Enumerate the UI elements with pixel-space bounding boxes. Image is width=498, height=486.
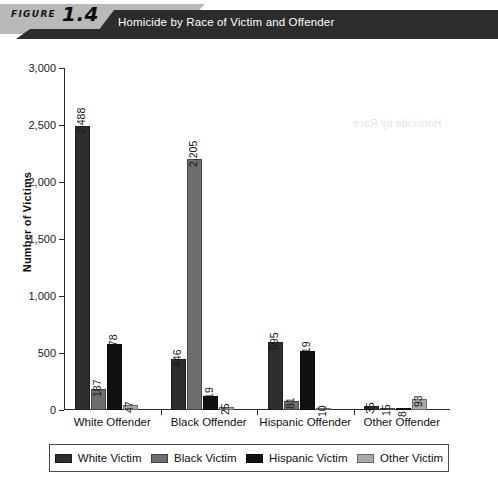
legend-swatch-icon <box>357 454 374 463</box>
bar <box>187 159 202 410</box>
figure-word-label: FIGURE <box>11 9 56 19</box>
chart-legend: White VictimBlack VictimHispanic VictimO… <box>49 444 449 472</box>
y-axis-title: Number of Victims <box>20 92 34 352</box>
y-axis-tick-label: 500 <box>38 347 56 359</box>
y-axis-tick <box>59 68 64 69</box>
bar-value-label: 47 <box>123 401 135 413</box>
y-axis-line <box>64 68 65 410</box>
bar-value-label: 119 <box>203 388 215 405</box>
x-axis-category-label: Black Offender <box>171 416 247 428</box>
legend-swatch-icon <box>55 454 72 463</box>
legend-label: Black Victim <box>174 452 236 464</box>
legend-label: Other Victim <box>380 452 443 464</box>
legend-swatch-icon <box>151 454 168 463</box>
bar-value-label: 187 <box>91 379 103 397</box>
bar-value-label: 25 <box>219 403 231 415</box>
bar-chart: Number of Victims 3,0002,5002,0001,5001,… <box>0 46 498 436</box>
bar-value-label: 10 <box>316 405 328 417</box>
y-axis-tick <box>59 296 64 297</box>
bar-value-label: 578 <box>107 335 119 353</box>
bar-value-label: 93 <box>412 396 424 408</box>
scan-bleed-artifact: Homicide by Race <box>352 118 441 129</box>
bar-value-label: 35 <box>364 402 376 414</box>
bar-value-label: 595 <box>268 333 280 351</box>
y-axis-tick-label: 2,000 <box>28 176 56 188</box>
legend-item[interactable]: Other Victim <box>357 452 443 464</box>
legend-item[interactable]: White Victim <box>55 452 142 464</box>
bar <box>75 126 90 410</box>
legend-swatch-icon <box>246 454 263 463</box>
figure-number-label: 1.4 <box>62 2 99 26</box>
bar <box>268 342 283 410</box>
bar-value-label: 2,488 <box>75 108 87 134</box>
bar <box>396 408 411 410</box>
legend-item[interactable]: Hispanic Victim <box>246 452 347 464</box>
x-axis-category-label: White Offender <box>74 416 151 428</box>
bar-value-label: 446 <box>171 350 183 368</box>
bar <box>300 351 315 410</box>
x-axis-separator-tick <box>257 409 258 415</box>
figure-header: FIGURE 1.4 Homicide by Race of Victim an… <box>0 0 498 46</box>
figure-title: Homicide by Race of Victim and Offender <box>118 16 334 28</box>
x-axis-category-label: Other Offender <box>364 416 441 428</box>
x-axis-category-label: Hispanic Offender <box>259 416 351 428</box>
y-axis-tick <box>59 239 64 240</box>
y-axis-tick <box>59 125 64 126</box>
y-axis-tick <box>59 182 64 183</box>
y-axis-tick <box>59 410 64 411</box>
y-axis-tick <box>59 353 64 354</box>
y-axis-tick-label: 1,000 <box>28 290 56 302</box>
legend-label: Hispanic Victim <box>269 452 347 464</box>
x-axis-separator-tick <box>354 409 355 415</box>
x-axis-separator-tick <box>161 409 162 415</box>
bar <box>107 344 122 410</box>
legend-label: White Victim <box>78 452 142 464</box>
y-axis-tick-label: 3,000 <box>28 62 56 74</box>
bar-value-label: 81 <box>284 397 296 409</box>
legend-item[interactable]: Black Victim <box>151 452 236 464</box>
y-axis-tick-label: 0 <box>50 404 56 416</box>
bar-value-label: 15 <box>380 405 392 417</box>
bar-value-label: 2,205 <box>187 140 199 166</box>
y-axis-tick-label: 1,500 <box>28 233 56 245</box>
bar-value-label: 519 <box>300 341 312 359</box>
figure-title-banner-shadow <box>0 29 498 39</box>
y-axis-tick-label: 2,500 <box>28 119 56 131</box>
